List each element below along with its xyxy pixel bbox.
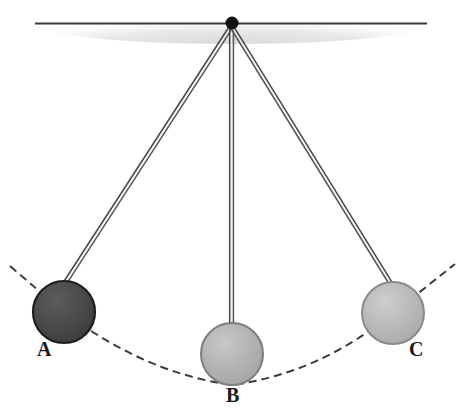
- pendulum-bob-b-label: B: [226, 385, 240, 405]
- pendulum-rod-b: [230, 28, 234, 327]
- pendulum-bob-b: [201, 323, 263, 385]
- pendulum-figure: A B C: [0, 0, 464, 419]
- pivot-point: [226, 17, 239, 30]
- pendulum-bob-a-label: A: [37, 339, 52, 359]
- pendulum-bob-c: [362, 282, 424, 344]
- pendulum-rods-group: [62, 26, 395, 327]
- pendulum-rod-a: [62, 26, 233, 286]
- pendulum-bobs-group: [33, 281, 424, 385]
- pendulum-rod-c: [231, 26, 395, 288]
- pendulum-diagram-canvas: [0, 0, 464, 419]
- pendulum-bob-c-label: C: [409, 339, 424, 359]
- pendulum-bob-a: [33, 281, 95, 343]
